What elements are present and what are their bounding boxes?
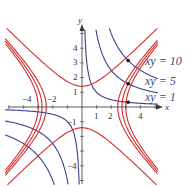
tick-x-neg2: −2 <box>47 94 57 104</box>
tick-x-1: 1 <box>94 111 99 121</box>
intersection-point <box>126 59 130 63</box>
intersection-point <box>126 100 130 104</box>
tick-y-4: 4 <box>73 43 78 53</box>
intersection-point <box>126 82 130 86</box>
label-xy-1: xy = 1 <box>144 90 176 104</box>
tick-y-3: 3 <box>73 57 78 67</box>
y-axis-arrow-icon <box>80 24 85 31</box>
curve-xy-10 <box>5 135 54 185</box>
tick-y-1: 1 <box>73 87 78 97</box>
plot-area: x y −4 −2 1 2 4 4 3 2 1 −1 −4 xy = 10 xy… <box>0 0 191 187</box>
label-xy-5: xy = 5 <box>144 74 176 88</box>
tick-y-neg4: −4 <box>67 161 77 171</box>
chart: x y −4 −2 1 2 4 4 3 2 1 −1 −4 xy = 10 xy… <box>0 0 191 187</box>
tick-x-neg4: −4 <box>22 94 32 104</box>
tick-x-4: 4 <box>138 111 143 121</box>
tick-x-2: 2 <box>108 111 113 121</box>
curve-xy-5 <box>5 121 68 184</box>
y-axis-label: y <box>77 15 82 25</box>
tick-y-neg1: −1 <box>67 117 77 127</box>
tick-y-2: 2 <box>73 72 78 82</box>
x-axis-arrow-icon <box>156 105 163 110</box>
label-xy-10: xy = 10 <box>144 54 182 68</box>
